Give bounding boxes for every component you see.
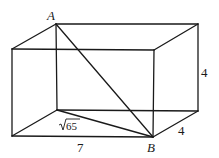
label-width: 4 [178,123,185,138]
edge-bottom-left [12,110,57,136]
edge-bottom-right [153,111,198,137]
label-base-diagonal: 65 [59,119,80,132]
label-radicand: 65 [66,120,78,132]
label-height: 4 [201,65,208,80]
edge-bottom-front [12,136,153,137]
label-length: 7 [77,140,84,155]
edge-bottom-back [57,110,198,111]
edge-vertical-back-left [56,24,57,110]
edge-top-right [154,24,198,50]
label-point-a: A [46,8,55,23]
box-diagram: A B 7 4 4 65 [0,0,219,158]
edge-top-left [12,24,56,49]
label-point-b: B [147,140,155,155]
edge-vertical-front-right [153,50,154,137]
edge-top-front [12,49,154,50]
